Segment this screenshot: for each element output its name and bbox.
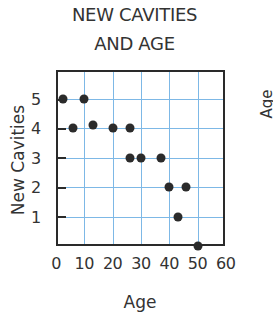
x-axis-title: Age [124,292,157,312]
x-tick-label: 30 [131,254,150,273]
y-tick-label: 2 [29,178,43,197]
data-point [88,121,97,130]
y-tick-mark [56,216,66,218]
horizontal-gridline [58,187,223,188]
x-tick-label: 40 [160,254,179,273]
x-tick-label: 50 [188,254,207,273]
x-tick-label: 0 [51,254,61,273]
data-point [165,183,174,192]
x-tick-label: 60 [216,254,235,273]
data-point [125,153,134,162]
chart-title-line-1: NEW CAVITIES [0,4,271,25]
data-point [193,242,202,251]
data-point [125,124,134,133]
y-tick-label: 3 [29,148,43,167]
y-tick-mark [56,157,66,159]
chart-title-line-2: AND AGE [0,33,271,54]
data-point [182,183,191,192]
y-axis-title: New Cavities [8,100,28,220]
horizontal-gridline [58,217,223,218]
data-point [156,153,165,162]
data-point [173,212,182,221]
x-tick-label: 20 [103,254,122,273]
data-point [59,95,68,104]
horizontal-gridline [58,128,223,129]
data-point [68,124,77,133]
y-tick-label: 1 [29,207,43,226]
data-point [136,153,145,162]
data-point [80,95,89,104]
y-tick-label: 5 [29,90,43,109]
y-tick-mark [56,187,66,189]
clipped-adjacent-axis-title: Age [258,89,273,118]
x-tick-label: 10 [75,254,94,273]
y-tick-label: 4 [29,119,43,138]
y-tick-mark [56,128,66,130]
plot-area [56,70,225,246]
data-point [108,124,117,133]
